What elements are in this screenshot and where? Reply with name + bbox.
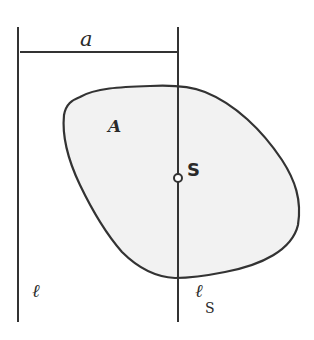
distance-label: a — [80, 27, 93, 51]
axis-ls-label: ℓ — [195, 280, 203, 301]
parallel-axis-diagram: a A S ℓ ℓ S — [0, 0, 314, 340]
axis-l-label: ℓ — [32, 280, 40, 301]
area-label: A — [106, 116, 121, 136]
centroid-point — [174, 174, 182, 182]
axis-ls-subscript: S — [205, 300, 215, 316]
area-region — [64, 86, 300, 278]
centroid-label: S — [187, 159, 200, 180]
